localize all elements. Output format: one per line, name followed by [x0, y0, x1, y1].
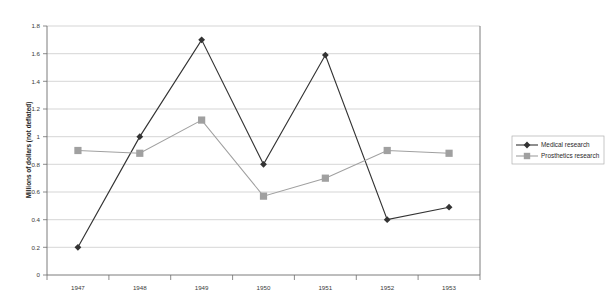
y-tick-label: 0.2 — [31, 244, 40, 251]
data-point-square[interactable] — [74, 147, 81, 154]
data-point-square[interactable] — [445, 150, 452, 157]
y-tick-label: 1.2 — [31, 105, 40, 112]
x-tick-label: 1950 — [257, 284, 271, 291]
x-tick-labels: 1947 1948 1949 1950 1951 1952 1953 — [71, 284, 456, 291]
data-point-square[interactable] — [322, 175, 329, 182]
legend: Medical research Prosthetics research — [512, 136, 604, 164]
legend-item-prosthetics-research[interactable]: Prosthetics research — [516, 152, 600, 159]
data-point-square[interactable] — [136, 150, 143, 157]
y-tick-label: 1.8 — [31, 22, 40, 29]
x-tick-label: 1949 — [195, 284, 209, 291]
y-tick-label: 0.4 — [31, 216, 40, 223]
y-tick-label: 0.8 — [31, 161, 40, 168]
y-axis-title: Millions of dollars (not deflated) — [25, 102, 33, 199]
square-marker-icon — [524, 153, 530, 159]
y-tick-label: 1.4 — [31, 78, 40, 85]
x-tick-label: 1953 — [442, 284, 456, 291]
y-tick-label: 1.6 — [31, 50, 40, 57]
data-point-square[interactable] — [260, 193, 267, 200]
legend-item-medical-research[interactable]: Medical research — [516, 141, 590, 148]
plot-area-background — [47, 26, 480, 275]
line-chart: 1.8 1.6 1.4 1.2 1 0.8 0.6 0.4 0.2 0 1947… — [0, 0, 611, 307]
y-tick-label: 0 — [37, 271, 41, 278]
y-tick-labels: 1.8 1.6 1.4 1.2 1 0.8 0.6 0.4 0.2 0 — [31, 22, 40, 278]
legend-label-medical: Medical research — [541, 141, 590, 148]
y-tick-label: 0.6 — [31, 188, 40, 195]
data-point-square[interactable] — [384, 147, 391, 154]
legend-label-prosthetics: Prosthetics research — [541, 152, 600, 159]
x-tick-label: 1947 — [71, 284, 85, 291]
y-tick-label: 1 — [37, 133, 41, 140]
x-tick-label: 1951 — [318, 284, 332, 291]
diamond-marker-icon — [524, 142, 531, 149]
x-tick-label: 1948 — [133, 284, 147, 291]
x-tick-label: 1952 — [380, 284, 394, 291]
y-tick-marks — [43, 26, 47, 275]
x-tick-marks — [47, 275, 480, 280]
data-point-square[interactable] — [198, 116, 205, 123]
chart-canvas: 1.8 1.6 1.4 1.2 1 0.8 0.6 0.4 0.2 0 1947… — [0, 0, 611, 307]
legend-border — [512, 136, 604, 164]
